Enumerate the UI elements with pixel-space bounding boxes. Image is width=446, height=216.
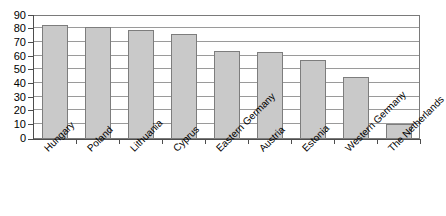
y-tick-mark-30 xyxy=(28,97,33,98)
x-tick-mark-eastern-germany xyxy=(248,140,249,144)
y-tick-mark-50 xyxy=(28,69,33,70)
y-tick-mark-20 xyxy=(28,110,33,111)
x-tick-mark-cyprus xyxy=(205,140,206,144)
bar-hungary xyxy=(42,25,68,139)
x-tick-mark-the-netherlands xyxy=(420,140,421,144)
y-tick-mark-60 xyxy=(28,56,33,57)
x-tick-mark-austria xyxy=(291,140,292,144)
y-tick-mark-40 xyxy=(28,83,33,84)
x-tick-mark-poland xyxy=(119,140,120,144)
x-tick-mark-hungary xyxy=(76,140,77,144)
y-tick-label-50: 50 xyxy=(2,64,26,75)
y-tick-mark-70 xyxy=(28,42,33,43)
y-axis xyxy=(33,15,34,140)
y-tick-mark-10 xyxy=(28,124,33,125)
y-tick-mark-90 xyxy=(28,15,33,16)
x-tick-mark-western-germany xyxy=(377,140,378,144)
y-tick-label-40: 40 xyxy=(2,78,26,89)
y-tick-label-20: 20 xyxy=(2,105,26,116)
y-tick-label-70: 70 xyxy=(2,37,26,48)
y-tick-label-90: 90 xyxy=(2,10,26,21)
y-tick-label-30: 30 xyxy=(2,92,26,103)
y-tick-label-0: 0 xyxy=(2,133,26,144)
y-tick-label-10: 10 xyxy=(2,119,26,130)
x-tick-mark-lithuania xyxy=(162,140,163,144)
x-tick-mark-estonia xyxy=(334,140,335,144)
y-tick-mark-80 xyxy=(28,28,33,29)
bar-poland xyxy=(85,27,111,139)
y-tick-label-60: 60 xyxy=(2,51,26,62)
y-tick-mark-0 xyxy=(28,139,33,140)
y-tick-label-80: 80 xyxy=(2,23,26,34)
